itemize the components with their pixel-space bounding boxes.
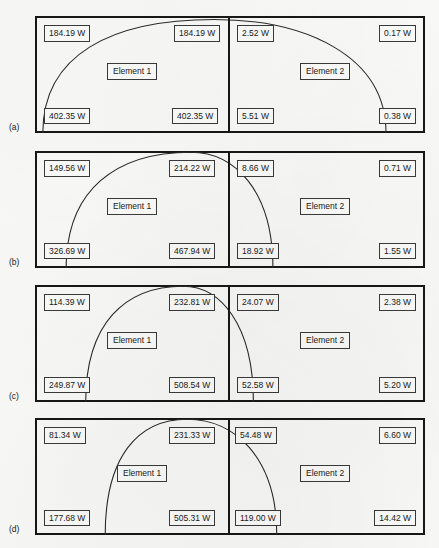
panel-a-arc-svg — [35, 16, 425, 133]
panel-d-divider — [228, 418, 230, 535]
e2-bottom-right-value: 14.42 W — [374, 510, 416, 527]
e1-bottom-right-value: 505.31 W — [169, 510, 215, 527]
e1-bottom-left-value: 249.87 W — [44, 377, 90, 394]
e2-bottom-left-value: 119.00 W — [235, 510, 281, 527]
e1-top-left-value: 184.19 W — [44, 25, 90, 42]
e2-bottom-left-value: 18.92 W — [237, 243, 279, 260]
e1-top-left-value: 81.34 W — [44, 427, 86, 444]
element-2-label: Element 2 — [300, 198, 350, 215]
panel-a: 184.19 W 184.19 W 402.35 W 402.35 W Elem… — [35, 16, 425, 133]
e2-top-left-value: 54.48 W — [235, 427, 277, 444]
element-2-label: Element 2 — [300, 332, 350, 349]
e2-top-left-value: 8.66 W — [237, 160, 274, 177]
e1-bottom-left-value: 326.69 W — [44, 243, 90, 260]
figure-container: 184.19 W 184.19 W 402.35 W 402.35 W Elem… — [0, 0, 439, 548]
e2-bottom-right-value: 0.38 W — [379, 108, 416, 125]
panel-d: 81.34 W 231.33 W 177.68 W 505.31 W Eleme… — [35, 418, 425, 535]
panel-a-divider — [228, 16, 230, 133]
element-1-label: Element 1 — [117, 465, 167, 482]
e1-bottom-left-value: 402.35 W — [44, 108, 90, 125]
panel-d-arc-layer — [35, 418, 425, 535]
panel-c-arc-svg — [35, 285, 425, 402]
element-1-label: Element 1 — [107, 198, 157, 215]
e1-bottom-right-value: 467.94 W — [169, 243, 215, 260]
element-2-label: Element 2 — [300, 63, 350, 80]
e2-top-right-value: 2.38 W — [379, 294, 416, 311]
e2-top-right-value: 0.71 W — [379, 160, 416, 177]
e1-bottom-left-value: 177.68 W — [44, 510, 90, 527]
panel-b-arc-layer — [35, 151, 425, 268]
e2-top-left-value: 24.07 W — [237, 294, 279, 311]
e1-bottom-right-value: 508.54 W — [169, 377, 215, 394]
e1-top-right-value: 231.33 W — [169, 427, 215, 444]
panel-c-arc-layer — [35, 285, 425, 402]
panel-tag-b: (b) — [9, 258, 19, 267]
panel-tag-a: (a) — [9, 123, 19, 132]
e1-top-left-value: 149.56 W — [44, 160, 90, 177]
e1-top-right-value: 232.81 W — [169, 294, 215, 311]
e1-bottom-right-value: 402.35 W — [172, 108, 218, 125]
element-1-label: Element 1 — [107, 332, 157, 349]
element-2-label: Element 2 — [300, 465, 350, 482]
e1-top-right-value: 184.19 W — [174, 25, 220, 42]
e2-top-right-value: 0.17 W — [379, 25, 416, 42]
e1-top-right-value: 214.22 W — [169, 160, 215, 177]
element-1-label: Element 1 — [107, 63, 157, 80]
panel-c-divider — [228, 285, 230, 402]
panel-b-divider — [228, 151, 230, 268]
e2-top-left-value: 2.52 W — [237, 25, 274, 42]
panel-d-arc-svg — [35, 418, 425, 535]
panel-tag-c: (c) — [9, 392, 19, 401]
panel-c: 114.39 W 232.81 W 249.87 W 508.54 W Elem… — [35, 285, 425, 402]
e2-bottom-right-value: 1.55 W — [379, 243, 416, 260]
panel-b: 149.56 W 214.22 W 326.69 W 467.94 W Elem… — [35, 151, 425, 268]
e1-top-left-value: 114.39 W — [44, 294, 90, 311]
e2-top-right-value: 6.60 W — [379, 427, 416, 444]
panel-tag-d: (d) — [9, 525, 19, 534]
panel-a-arc-layer — [35, 16, 425, 133]
panel-b-arc-svg — [35, 151, 425, 268]
e2-bottom-left-value: 5.51 W — [237, 108, 274, 125]
e2-bottom-left-value: 52.58 W — [237, 377, 279, 394]
e2-bottom-right-value: 5.20 W — [379, 377, 416, 394]
